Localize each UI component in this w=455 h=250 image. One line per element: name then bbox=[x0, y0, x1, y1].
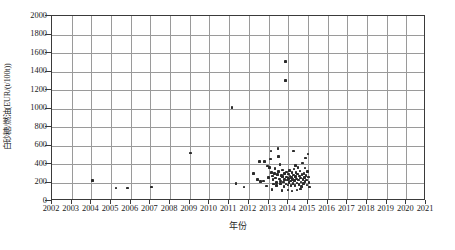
x-axis-tick-mark bbox=[208, 200, 209, 204]
y-axis-tick-mark bbox=[45, 163, 51, 164]
scatter-point bbox=[263, 160, 266, 163]
scatter-point bbox=[266, 165, 269, 168]
gridline-vertical bbox=[190, 16, 191, 199]
x-axis-tick-mark bbox=[130, 200, 131, 204]
gridline-vertical bbox=[367, 16, 368, 199]
scatter-point bbox=[189, 152, 192, 155]
y-axis-tick-label: 1400 bbox=[3, 66, 47, 75]
scatter-point bbox=[306, 170, 309, 173]
scatter-point bbox=[274, 167, 277, 170]
x-axis-tick-mark bbox=[110, 200, 111, 204]
x-axis-tick-mark bbox=[425, 200, 426, 204]
y-axis-tick-label: 1200 bbox=[3, 85, 47, 94]
scatter-point bbox=[277, 155, 280, 158]
y-axis-tick-label: 1000 bbox=[3, 103, 47, 112]
scatter-point bbox=[292, 150, 295, 153]
scatter-point bbox=[304, 167, 307, 170]
scatter-point bbox=[277, 170, 280, 173]
x-axis-tick-mark bbox=[169, 200, 170, 204]
gridline-vertical bbox=[229, 16, 230, 199]
gridline-vertical bbox=[150, 16, 151, 199]
y-axis-tick-label: 2000 bbox=[3, 11, 47, 20]
scatter-point bbox=[296, 189, 299, 192]
scatter-point bbox=[265, 185, 268, 188]
gridline-vertical bbox=[249, 16, 250, 199]
gridline-horizontal bbox=[52, 183, 424, 184]
gridline-horizontal bbox=[52, 109, 424, 110]
y-axis-tick-mark bbox=[45, 34, 51, 35]
y-axis-tick-label: 200 bbox=[3, 177, 47, 186]
scatter-point bbox=[294, 184, 297, 187]
scatter-chart-figure: 白砂糖/燃油(EUR/(t/100t)) 0200400600800100012… bbox=[0, 0, 455, 250]
gridline-horizontal bbox=[52, 127, 424, 128]
scatter-point bbox=[126, 187, 129, 190]
x-axis-tick-mark bbox=[405, 200, 406, 204]
gridline-vertical bbox=[72, 16, 73, 199]
x-axis-tick-mark bbox=[90, 200, 91, 204]
gridline-horizontal bbox=[52, 164, 424, 165]
y-axis-tick-mark bbox=[45, 126, 51, 127]
scatter-point bbox=[279, 163, 282, 166]
y-axis-tick-label: 400 bbox=[3, 159, 47, 168]
x-axis-tick-mark bbox=[189, 200, 190, 204]
scatter-point bbox=[297, 166, 300, 169]
scatter-point bbox=[271, 188, 274, 191]
plot-area bbox=[51, 15, 425, 200]
gridline-horizontal bbox=[52, 35, 424, 36]
scatter-point bbox=[276, 173, 279, 176]
scatter-point bbox=[235, 182, 238, 185]
scatter-point bbox=[307, 176, 310, 179]
gridline-horizontal bbox=[52, 72, 424, 73]
x-axis-tick-label: 2021 bbox=[408, 203, 442, 214]
x-axis-tick-labels: 2002200320042005200620072008200920102011… bbox=[0, 203, 455, 217]
x-axis-tick-mark bbox=[149, 200, 150, 204]
scatter-point bbox=[283, 185, 286, 188]
gridline-horizontal bbox=[52, 53, 424, 54]
y-axis-tick-label: 1800 bbox=[3, 29, 47, 38]
x-axis-tick-mark bbox=[228, 200, 229, 204]
scatter-point bbox=[299, 170, 302, 173]
scatter-point bbox=[299, 188, 302, 191]
x-axis-title: 年份 bbox=[51, 220, 425, 232]
x-axis-tick-mark bbox=[327, 200, 328, 204]
gridline-horizontal bbox=[52, 146, 424, 147]
scatter-point bbox=[274, 177, 277, 180]
scatter-point bbox=[267, 176, 270, 179]
x-axis-tick-mark bbox=[307, 200, 308, 204]
gridline-vertical bbox=[111, 16, 112, 199]
x-axis-tick-mark bbox=[268, 200, 269, 204]
scatter-point bbox=[277, 147, 280, 150]
y-axis-tick-mark bbox=[45, 182, 51, 183]
scatter-point bbox=[284, 60, 287, 63]
scatter-point bbox=[281, 189, 284, 192]
y-axis-tick-label: 1600 bbox=[3, 48, 47, 57]
y-axis-tick-label: 800 bbox=[3, 122, 47, 131]
x-axis-tick-mark bbox=[346, 200, 347, 204]
gridline-vertical bbox=[328, 16, 329, 199]
x-axis-tick-mark bbox=[366, 200, 367, 204]
scatter-point bbox=[294, 164, 297, 167]
scatter-point bbox=[304, 157, 307, 160]
x-axis-tick-mark bbox=[71, 200, 72, 204]
gridline-horizontal bbox=[52, 90, 424, 91]
gridline-vertical bbox=[91, 16, 92, 199]
scatter-point bbox=[275, 184, 278, 187]
gridline-vertical bbox=[347, 16, 348, 199]
scatter-point bbox=[275, 181, 278, 184]
y-axis-tick-mark bbox=[45, 71, 51, 72]
y-axis-tick-mark bbox=[45, 15, 51, 16]
x-axis-tick-mark bbox=[248, 200, 249, 204]
y-axis-tick-mark bbox=[45, 52, 51, 53]
scatter-point bbox=[291, 190, 294, 193]
x-axis-tick-mark bbox=[51, 200, 52, 204]
scatter-point bbox=[293, 168, 296, 171]
y-axis-tick-mark bbox=[45, 145, 51, 146]
gridline-vertical bbox=[209, 16, 210, 199]
gridline-vertical bbox=[406, 16, 407, 199]
scatter-point bbox=[91, 179, 94, 182]
y-axis-tick-mark bbox=[45, 89, 51, 90]
scatter-point bbox=[252, 172, 255, 175]
gridline-vertical bbox=[387, 16, 388, 199]
scatter-point bbox=[281, 169, 284, 172]
x-axis-tick-mark bbox=[386, 200, 387, 204]
